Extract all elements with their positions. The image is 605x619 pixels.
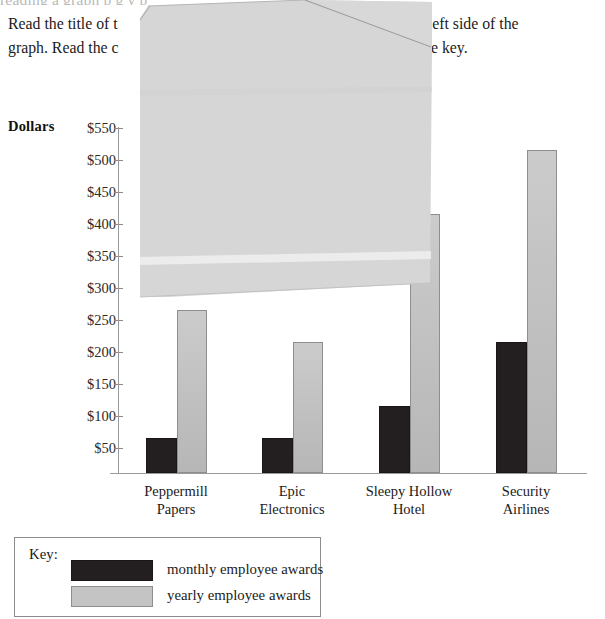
y-tick-label-50: $50 xyxy=(64,440,116,457)
y-axis-title: Dollars xyxy=(8,118,55,135)
key-label-monthly: monthly employee awards xyxy=(167,561,323,578)
x-category-line-1: Security xyxy=(456,482,596,500)
y-tick-label-150: $150 xyxy=(64,376,116,393)
x-category-line-2: Airlines xyxy=(456,500,596,518)
bar-yearly-security-airlines xyxy=(527,150,557,473)
key-swatch-yearly-icon xyxy=(71,586,153,607)
x-category-label-security-airlines: Security Airlines xyxy=(456,482,596,518)
bar-monthly-epic-electronics xyxy=(262,438,293,473)
y-tick-label-500: $500 xyxy=(64,152,116,169)
y-tick-label-550: $550 xyxy=(64,120,116,137)
bar-monthly-sleepy-hollow-hotel xyxy=(379,406,410,473)
chart-key-box: Key: monthly employee awards yearly empl… xyxy=(14,537,321,617)
bar-monthly-peppermill-papers xyxy=(146,438,177,473)
bar-yearly-peppermill-papers xyxy=(177,310,207,473)
key-swatch-monthly-icon xyxy=(71,560,153,581)
key-label-yearly: yearly employee awards xyxy=(167,587,311,604)
bar-yearly-sleepy-hollow-hotel xyxy=(410,214,440,473)
y-tick-label-300: $300 xyxy=(64,280,116,297)
y-tick-label-450: $450 xyxy=(64,184,116,201)
key-title: Key: xyxy=(29,546,58,563)
y-tick-label-350: $350 xyxy=(64,248,116,265)
bar-yearly-epic-electronics xyxy=(293,342,323,473)
x-axis-line xyxy=(110,473,587,474)
bar-monthly-security-airlines xyxy=(496,342,527,473)
y-tick-label-250: $250 xyxy=(64,312,116,329)
y-tick-label-100: $100 xyxy=(64,408,116,425)
y-tick-label-400: $400 xyxy=(64,216,116,233)
bar-chart: Dollars $550 $500 $450 $400 $350 $300 $2… xyxy=(0,0,605,530)
y-tick-label-200: $200 xyxy=(64,344,116,361)
y-axis-line xyxy=(118,127,119,474)
